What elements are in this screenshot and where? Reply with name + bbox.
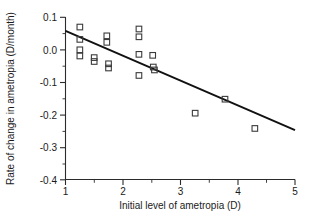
x-tick-label-1: 2 (120, 186, 126, 197)
axes-group (65, 17, 295, 180)
data-point-marker (252, 126, 258, 132)
y-tick-label-1: 0.0 (43, 45, 57, 56)
data-point-marker (91, 55, 97, 61)
y-tick-label-0: 0.1 (43, 12, 57, 23)
x-tick-label-3: 4 (235, 186, 241, 197)
regression-fit-line (66, 31, 296, 130)
data-point-marker (91, 59, 97, 65)
data-point-marker (136, 52, 142, 58)
x-tick-label-2: 3 (178, 186, 184, 197)
data-point-marker (136, 34, 142, 40)
y-tick-labels: 0.1 0.0 -0.1 -0.2 -0.3 -0.4 (40, 12, 58, 186)
data-point-marker (192, 110, 198, 116)
y-tick-label-5: -0.4 (40, 175, 58, 186)
data-markers-group (77, 24, 258, 131)
x-tick-labels: 1 2 3 4 5 (63, 186, 299, 197)
data-point-marker (136, 26, 142, 32)
plot-canvas: 0.1 0.0 -0.1 -0.2 -0.3 -0.4 1 2 3 4 5 In… (0, 0, 312, 216)
scatter-plot-figure: 0.1 0.0 -0.1 -0.2 -0.3 -0.4 1 2 3 4 5 In… (0, 0, 312, 216)
x-tick-label-0: 1 (63, 186, 69, 197)
data-point-marker (77, 53, 83, 59)
x-axis-major-ticks (66, 180, 296, 186)
data-point-marker (136, 73, 142, 79)
data-point-marker (77, 47, 83, 53)
data-point-marker (104, 40, 110, 46)
data-point-marker (104, 33, 110, 39)
y-axis-title: Rate of change in ametropia (D/month) (5, 12, 16, 185)
y-tick-label-3: -0.2 (40, 110, 58, 121)
x-axis-title: Initial level of ametropia (D) (119, 200, 241, 211)
y-tick-label-2: -0.1 (40, 77, 58, 88)
data-point-marker (77, 24, 83, 30)
data-point-marker (150, 53, 156, 59)
x-tick-label-4: 5 (292, 186, 298, 197)
y-tick-label-4: -0.3 (40, 142, 58, 153)
